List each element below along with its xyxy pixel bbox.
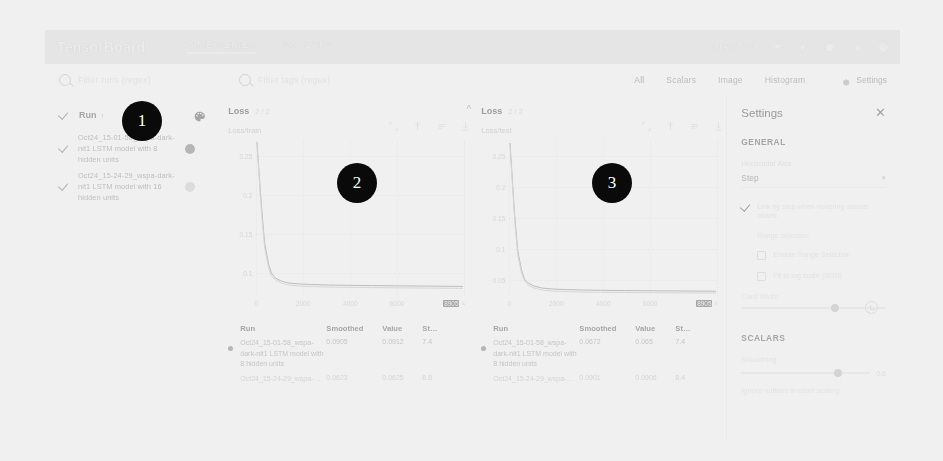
link-by-step-checkbox[interactable] bbox=[741, 203, 750, 212]
color-palette-icon[interactable] bbox=[193, 109, 206, 122]
filter-toolbar: Filter runs (regex) Filter tags (regex) … bbox=[45, 64, 900, 96]
card-width-slider[interactable] bbox=[741, 307, 886, 309]
cell-value: 0.0625 bbox=[382, 374, 422, 385]
download-icon[interactable] bbox=[460, 121, 471, 132]
slider-track[interactable] bbox=[741, 372, 870, 374]
runs-search-box[interactable]: Filter runs (regex) bbox=[45, 74, 230, 86]
cell-run: Oct24_15-01-58_wspa-dark-nit1 LSTM model… bbox=[228, 338, 326, 370]
annotation-badge-1: 1 bbox=[122, 101, 162, 141]
fit-log-axis-checkbox-row[interactable]: Fit to log scale (SGD) bbox=[757, 271, 886, 281]
x-axis-max-badge[interactable]: 8905 × bbox=[443, 300, 465, 307]
sort-ascending-icon[interactable]: ↑ bbox=[101, 112, 105, 119]
run-list-item[interactable]: Oct24_15-24-29_wspa-dark-nit1 LSTM model… bbox=[59, 170, 208, 203]
maximize-icon[interactable] bbox=[641, 121, 652, 132]
chart-card-loss-train: Loss 2 / 2 ^ Loss/train bbox=[224, 102, 473, 442]
reset-icon[interactable] bbox=[865, 301, 878, 314]
cell-run: Oct24_15-01-58_wspa-dark-nit1 LSTM model… bbox=[481, 338, 579, 370]
settings-gear-icon bbox=[839, 74, 851, 86]
card-group-title: Loss bbox=[481, 106, 502, 116]
screenshot-root: TensorBoard TIME SERIES SCALARS INACTIVE bbox=[0, 0, 943, 461]
runs-search-input[interactable]: Filter runs (regex) bbox=[78, 75, 151, 85]
close-icon[interactable]: ✕ bbox=[875, 106, 886, 119]
settings-toggle-button[interactable]: Settings bbox=[839, 74, 887, 86]
card-tag-header: Loss/train bbox=[224, 120, 473, 140]
col-header-smoothed[interactable]: Smoothed bbox=[579, 324, 635, 333]
smoothing-label: Smoothing bbox=[741, 355, 886, 364]
cell-run: Oct24_15-24-29_wspa-… bbox=[481, 374, 579, 385]
dashboard-body: Run ↑ Oct24_15-01-58_wspa-dark-nit1 LSTM… bbox=[45, 96, 900, 442]
table-row: Oct24_15-24-29_wspa-… 0.0623 0.0625 8.8 bbox=[228, 374, 469, 389]
slider-knob[interactable] bbox=[831, 304, 839, 312]
x-axis-max-badge[interactable]: 8905 × bbox=[696, 300, 718, 307]
chip-histogram[interactable]: Histogram bbox=[765, 75, 806, 85]
settings-gear-icon[interactable] bbox=[849, 40, 863, 54]
x-max-value: 8905 bbox=[443, 300, 459, 307]
maximize-icon[interactable] bbox=[388, 121, 399, 132]
col-header-run[interactable]: Run bbox=[481, 324, 579, 333]
horizontal-axis-select[interactable]: Step ▾ bbox=[741, 173, 886, 188]
run-name-label: Oct24_15-24-29_wspa-dark-nit1 LSTM model… bbox=[78, 170, 182, 203]
run-color-dot bbox=[185, 182, 195, 192]
col-header-step[interactable]: St… bbox=[422, 324, 448, 333]
y-tick-label: 0.15 bbox=[492, 215, 505, 222]
col-header-run[interactable]: Run bbox=[228, 324, 326, 333]
col-header-step[interactable]: St… bbox=[675, 324, 701, 333]
ignore-outliers-label[interactable]: Ignore outliers in chart scaling bbox=[741, 386, 886, 395]
card-tag-header: Loss/test bbox=[477, 120, 726, 140]
tags-search-input[interactable]: Filter tags (regex) bbox=[258, 75, 330, 85]
app-brand-logo[interactable]: TensorBoard bbox=[57, 39, 145, 55]
chip-scalars[interactable]: Scalars bbox=[666, 75, 696, 85]
fit-domain-icon[interactable] bbox=[689, 121, 700, 132]
smoothing-slider[interactable]: 0.6 bbox=[741, 370, 886, 377]
runs-column-label[interactable]: Run bbox=[79, 110, 97, 120]
slider-knob[interactable] bbox=[834, 369, 842, 377]
smoothing-value[interactable]: 0.6 bbox=[876, 370, 886, 377]
col-header-smoothed[interactable]: Smoothed bbox=[326, 324, 382, 333]
search-icon bbox=[239, 74, 251, 86]
pin-icon[interactable] bbox=[665, 121, 676, 132]
card-tool-buttons bbox=[388, 121, 471, 132]
pin-icon[interactable] bbox=[412, 121, 423, 132]
brightness-icon[interactable] bbox=[795, 40, 809, 54]
fit-log-axis-checkbox[interactable] bbox=[757, 272, 766, 281]
range-selection-label: Range selection bbox=[757, 231, 886, 240]
cell-step: 7.4 bbox=[675, 338, 701, 370]
cell-value: 0.0906 bbox=[635, 374, 675, 385]
x-axis: 0 2000 4000 6000 8905 × bbox=[256, 300, 465, 314]
col-header-value[interactable]: Value bbox=[382, 324, 422, 333]
tab-scalars[interactable]: SCALARS bbox=[282, 40, 333, 54]
col-header-value[interactable]: Value bbox=[635, 324, 675, 333]
x-tick-label: 2000 bbox=[549, 300, 564, 307]
download-icon[interactable] bbox=[713, 121, 724, 132]
chip-all[interactable]: All bbox=[634, 75, 644, 85]
y-axis: 0.25 0.2 0.15 0.1 bbox=[228, 140, 254, 296]
card-group-count: 2 / 2 bbox=[508, 107, 523, 116]
x-tick-label: 4000 bbox=[343, 300, 358, 307]
link-by-step-checkbox-row[interactable]: Link by step when hovering across charts bbox=[741, 202, 886, 220]
chip-image[interactable]: Image bbox=[718, 75, 743, 85]
refresh-icon[interactable] bbox=[822, 40, 836, 54]
chevron-up-icon[interactable]: ^ bbox=[467, 104, 472, 115]
enable-range-checkbox-row[interactable]: Enable Range Selection bbox=[757, 250, 886, 260]
fit-domain-icon[interactable] bbox=[436, 121, 447, 132]
cell-smoothed: 0.0623 bbox=[326, 374, 382, 385]
x-tick-label: 2000 bbox=[296, 300, 311, 307]
help-icon[interactable] bbox=[876, 40, 890, 54]
cell-smoothed: 0.0901 bbox=[579, 374, 635, 385]
enable-range-checkbox[interactable] bbox=[757, 251, 766, 260]
y-tick-label: 0.15 bbox=[239, 230, 252, 237]
settings-section-general: GENERAL bbox=[741, 137, 886, 147]
runs-sidebar: Run ↑ Oct24_15-01-58_wspa-dark-nit1 LSTM… bbox=[45, 96, 218, 442]
settings-panel-header: Settings ✕ bbox=[741, 106, 886, 119]
run-checkbox[interactable] bbox=[59, 143, 69, 153]
chart-data-table: Run Smoothed Value St… Oct24_15-01-58_ws… bbox=[481, 324, 722, 388]
tags-search-box[interactable]: Filter tags (regex) bbox=[230, 74, 480, 86]
run-checkbox[interactable] bbox=[59, 181, 69, 191]
tab-time-series[interactable]: TIME SERIES bbox=[187, 40, 256, 54]
x-max-value: 8905 bbox=[696, 300, 712, 307]
table-row: Oct24_15-01-58_wspa-dark-nit1 LSTM model… bbox=[228, 338, 469, 374]
select-all-runs-checkbox[interactable] bbox=[59, 110, 69, 120]
top-app-bar: TensorBoard TIME SERIES SCALARS INACTIVE bbox=[45, 30, 900, 64]
caret-down-icon[interactable] bbox=[774, 45, 782, 49]
run-color-dot bbox=[185, 144, 195, 154]
